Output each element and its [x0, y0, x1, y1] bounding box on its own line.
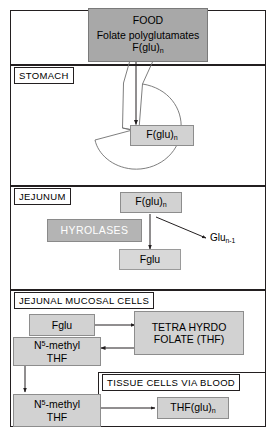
node-jejunum-fglu-label: Fglu: [140, 253, 160, 265]
node-food-subtitle: Folate polyglutamates: [97, 29, 200, 41]
section-label-jejunum-text: JEJUNUM: [19, 191, 66, 202]
node-jejunum-fglu: Fglu: [119, 249, 181, 270]
node-tissue-n5-methyl-thf: N5-methyl THF: [13, 394, 101, 427]
node-mucosal-n5-pre: N: [34, 339, 42, 351]
node-tetrahydrofolate-line1: TETRA HYRDO: [152, 321, 227, 333]
node-hydrolases: HYROLASES: [47, 219, 142, 242]
node-jejunum-fglun-sub: n: [163, 201, 167, 209]
node-food-formula-base: F(glu): [132, 41, 159, 53]
node-tetrahydrofolate: TETRA HYRDO FOLATE (THF): [134, 311, 244, 355]
node-stomach-fglun-sub: n: [174, 134, 178, 142]
node-jejunum-fglun: F(glu)n: [120, 192, 182, 213]
node-mucosal-n5-line2: THF: [47, 352, 67, 364]
section-label-stomach: STOMACH: [14, 67, 74, 84]
label-glu-n-minus-1-sub: n-1: [226, 237, 236, 244]
section-label-stomach-text: STOMACH: [19, 70, 69, 81]
label-glu-n-minus-1-base: Glu: [210, 232, 226, 243]
node-thf-glun-sub: n: [212, 407, 216, 415]
node-tetrahydrofolate-line2: FOLATE (THF): [154, 333, 224, 345]
section-label-jejunal-mucosal-cells-text: JEJUNAL MUCOSAL CELLS: [19, 295, 149, 306]
section-label-tissue-cells: TISSUE CELLS VIA BLOOD: [102, 374, 240, 391]
section-label-jejunum: JEJUNUM: [14, 188, 71, 205]
section-label-jejunal-mucosal-cells: JEJUNAL MUCOSAL CELLS: [14, 292, 154, 309]
node-hydrolases-label: HYROLASES: [61, 224, 129, 236]
node-food-formula: F(glu)n: [132, 41, 163, 55]
node-food-title: FOOD: [133, 14, 163, 26]
node-tissue-n5-pre: N: [34, 398, 42, 410]
node-mucosal-fglu: Fglu: [29, 314, 95, 336]
node-mucosal-n5-methyl-thf: N5-methyl THF: [13, 337, 101, 366]
node-tissue-n5-line2: THF: [47, 411, 67, 423]
diagram-canvas: STOMACH JEJUNUM JEJUNAL MUCOSAL CELLS TI…: [0, 0, 276, 427]
node-mucosal-fglu-label: Fglu: [52, 319, 72, 331]
label-glu-n-minus-1: Glun-1: [210, 232, 235, 244]
node-food: FOOD Folate polyglutamates F(glu)n: [88, 8, 208, 62]
section-label-tissue-cells-text: TISSUE CELLS VIA BLOOD: [107, 377, 235, 388]
node-stomach-fglun: F(glu)n: [130, 125, 194, 146]
node-thf-glun-base: THF(glu): [170, 401, 211, 413]
node-thf-glun: THF(glu)n: [157, 397, 229, 419]
node-food-formula-sub: n: [160, 47, 164, 55]
node-tissue-n5-post: -methyl: [46, 398, 80, 410]
node-mucosal-n5-post: -methyl: [46, 339, 80, 351]
node-jejunum-fglun-base: F(glu): [135, 195, 162, 207]
node-stomach-fglun-base: F(glu): [146, 128, 173, 140]
